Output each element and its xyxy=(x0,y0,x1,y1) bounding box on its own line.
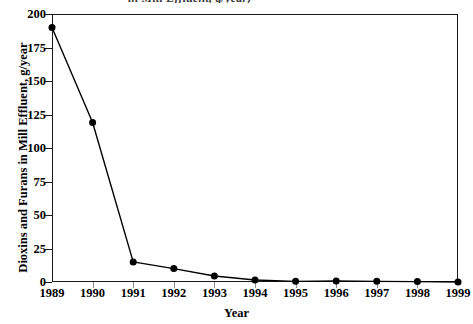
x-tick-mark xyxy=(255,282,256,288)
y-tick-mark xyxy=(45,249,52,250)
clipped-title-text: in Mill Effluent, g/year) xyxy=(128,0,358,3)
x-tick-mark xyxy=(133,282,134,288)
y-tick-mark xyxy=(45,48,52,49)
x-tick-label: 1999 xyxy=(428,287,473,300)
x-tick-mark xyxy=(93,282,94,288)
y-tick-mark xyxy=(45,81,52,82)
y-tick-mark xyxy=(45,182,52,183)
y-tick-label: 200 xyxy=(0,8,46,21)
x-tick-mark xyxy=(377,282,378,288)
y-tick-label: 100 xyxy=(0,142,46,155)
y-tick-mark xyxy=(45,148,52,149)
x-tick-mark xyxy=(174,282,175,288)
chart-figure: in Mill Effluent, g/year) Dioxins and Fu… xyxy=(0,0,473,324)
x-tick-mark xyxy=(417,282,418,288)
x-axis-title: Year xyxy=(0,306,473,321)
y-tick-label: 25 xyxy=(0,242,46,255)
y-tick-mark xyxy=(45,215,52,216)
y-tick-label: 175 xyxy=(0,41,46,54)
plot-area-frame xyxy=(52,14,458,282)
y-tick-label: 150 xyxy=(0,75,46,88)
y-tick-mark xyxy=(45,115,52,116)
y-tick-label: 75 xyxy=(0,175,46,188)
x-tick-mark xyxy=(296,282,297,288)
y-tick-mark xyxy=(45,14,52,15)
x-tick-mark xyxy=(336,282,337,288)
y-tick-label: 125 xyxy=(0,108,46,121)
y-tick-mark xyxy=(45,282,52,283)
x-tick-mark xyxy=(214,282,215,288)
y-tick-label: 50 xyxy=(0,209,46,222)
